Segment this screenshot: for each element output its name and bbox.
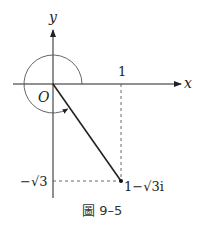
point-label: 1−√3i	[124, 179, 164, 194]
origin-label: O	[38, 89, 50, 105]
y-axis-label: y	[48, 9, 58, 25]
figure-caption: 圖 9–5	[82, 203, 122, 218]
point-marker	[119, 179, 123, 183]
x-tick-label-one: 1	[118, 64, 126, 79]
complex-plane-figure: y x O 1 −√3 1−√3i 圖 9–5	[0, 0, 202, 231]
x-axis-label: x	[184, 75, 192, 91]
diagram-canvas: y x O 1 −√3 1−√3i 圖 9–5	[0, 0, 202, 231]
vector-segment	[53, 84, 121, 181]
y-tick-label-neg-sqrt3: −√3	[20, 174, 47, 189]
